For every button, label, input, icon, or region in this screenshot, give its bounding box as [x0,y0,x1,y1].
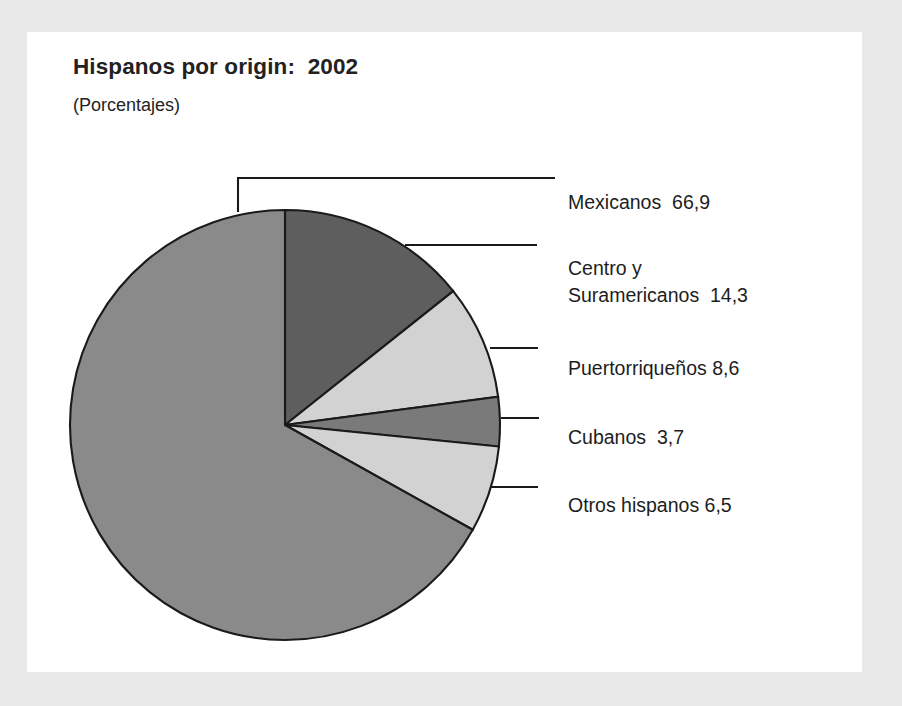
callout-label-mexicanos: Mexicanos 66,9 [568,189,710,216]
leader-line-mexicanos [238,178,555,212]
pie-chart [27,32,862,672]
callout-label-otros-hispanos: Otros hispanos 6,5 [568,492,732,519]
callout-label-cubanos: Cubanos 3,7 [568,424,684,451]
callout-label-puertorriquenos: Puertorriqueños 8,6 [568,355,739,382]
chart-card: Hispanos por origin: 2002 (Porcentajes) … [27,32,862,672]
page-root: Hispanos por origin: 2002 (Porcentajes) … [0,0,902,706]
callout-label-centro-suramericanos: Centro ySuramericanos 14,3 [568,255,748,309]
callout-label-centro-line1: Centro y [568,257,642,279]
pie-slice-group [70,210,500,640]
callout-label-centro-line2: Suramericanos 14,3 [568,284,748,306]
